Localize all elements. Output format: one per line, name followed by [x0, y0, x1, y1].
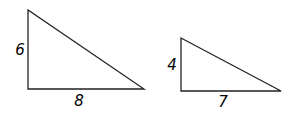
right-triangle-shape: [28, 10, 144, 89]
triangle-1: 6 8: [15, 10, 144, 110]
right-triangle-shape: [181, 38, 281, 91]
leg-label-vertical: 4: [167, 56, 177, 74]
leg-label-vertical: 6: [15, 41, 25, 59]
diagram-canvas: 6 8 4 7: [0, 0, 302, 116]
leg-label-horizontal: 7: [218, 93, 228, 111]
triangle-2: 4 7: [167, 38, 281, 111]
leg-label-horizontal: 8: [74, 92, 84, 110]
